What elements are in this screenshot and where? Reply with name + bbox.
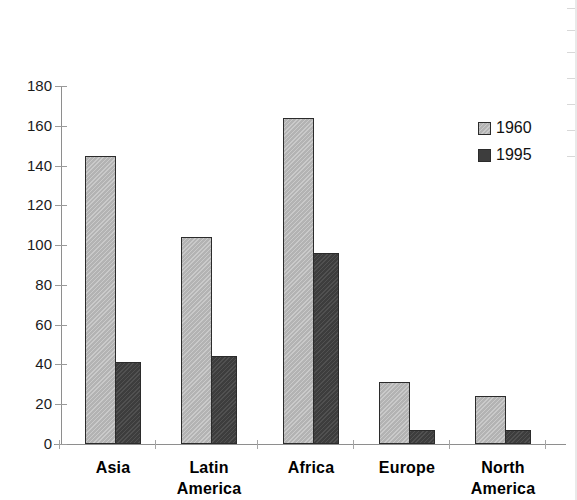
bar-africa-1995 (313, 253, 339, 444)
y-tick-label-wrap: 40 (0, 356, 52, 371)
category-label-line: Africa (288, 459, 335, 476)
category-label-north-america: NorthAmerica (448, 457, 558, 499)
bar-europe-1995 (409, 430, 435, 444)
y-tick-label-wrap: 80 (0, 277, 52, 292)
y-tick-label-wrap: 60 (0, 317, 52, 332)
y-tick-label: 40 (6, 356, 52, 371)
y-tick-label-wrap: 20 (0, 396, 52, 411)
page-edge-tick (567, 52, 575, 53)
bar-latin-america-1995 (211, 356, 237, 444)
category-label-europe: Europe (352, 457, 462, 478)
category-label-line: Latin (189, 459, 228, 476)
y-tick-label: 80 (6, 277, 52, 292)
category-label-asia: Asia (58, 457, 168, 478)
legend-item-1960: 1960 (478, 118, 570, 145)
legend-swatch-icon (478, 149, 491, 162)
page-edge-tick (567, 104, 575, 105)
page-edge-tick (567, 8, 575, 9)
bar-north-america-1995 (505, 430, 531, 444)
y-tick-label-wrap: 120 (0, 197, 52, 212)
x-tick-mark (59, 440, 60, 449)
category-label-line: America (448, 478, 558, 499)
page-edge-tick (567, 156, 575, 157)
y-tick-label: 180 (6, 78, 52, 93)
bar-latin-america-1960 (181, 237, 212, 444)
y-tick-label: 0 (6, 436, 52, 451)
x-axis-line (54, 444, 566, 445)
y-tick-label: 100 (6, 237, 52, 252)
y-tick-label-wrap: 100 (0, 237, 52, 252)
y-tick-label-wrap: 140 (0, 158, 52, 173)
y-tick-label: 140 (6, 158, 52, 173)
y-tick-label-wrap: 160 (0, 118, 52, 133)
y-tick-label: 60 (6, 317, 52, 332)
bar-asia-1960 (85, 156, 116, 444)
legend-label: 1995 (496, 145, 532, 165)
page-edge-tick (567, 30, 575, 31)
category-label-line: Europe (379, 459, 435, 476)
category-label-line: Asia (96, 459, 131, 476)
legend: 19601995 (478, 118, 570, 172)
bar-asia-1995 (115, 362, 141, 444)
y-tick-label: 120 (6, 197, 52, 212)
category-label-latin-america: LatinAmerica (154, 457, 264, 499)
bar-chart-figure: 180160140120100806040200 AsiaLatinAmeric… (0, 0, 577, 500)
category-label-line: North (481, 459, 525, 476)
bar-north-america-1960 (475, 396, 506, 444)
y-tick-label-wrap: 180 (0, 78, 52, 93)
y-tick-label-wrap: 0 (0, 436, 52, 451)
y-tick-label: 20 (6, 396, 52, 411)
legend-label: 1960 (496, 118, 532, 138)
y-tick-label: 160 (6, 118, 52, 133)
page-edge-tick (567, 78, 575, 79)
y-tick-mark (55, 444, 67, 445)
bar-europe-1960 (379, 382, 410, 444)
category-label-africa: Africa (256, 457, 366, 478)
category-label-line: America (154, 478, 264, 499)
page-edge-tick (567, 130, 575, 131)
legend-item-1995: 1995 (478, 145, 570, 172)
legend-swatch-icon (478, 122, 491, 135)
bar-africa-1960 (283, 118, 314, 444)
